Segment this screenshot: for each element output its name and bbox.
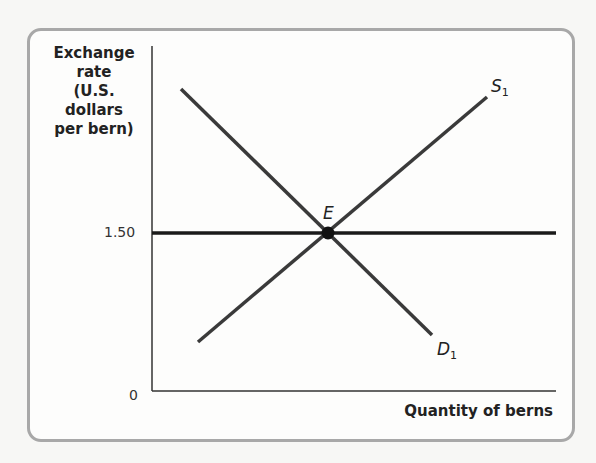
supply-label-s1: S1 (491, 76, 509, 99)
demand-curve-d1 (181, 89, 432, 335)
demand-label-d1: D1 (437, 339, 457, 362)
equilibrium-point-e (322, 227, 335, 240)
supply-label-subscript: 1 (502, 86, 509, 99)
point-e-label: E (323, 203, 334, 223)
demand-label-letter: D (437, 339, 450, 359)
supply-label-letter: S (491, 76, 502, 96)
origin-label: 0 (129, 387, 138, 403)
chart-plot (0, 0, 596, 463)
x-axis-label: Quantity of berns (404, 402, 553, 420)
supply-curve-s1 (198, 97, 487, 342)
y-tick-1-50: 1.50 (104, 224, 135, 240)
demand-label-subscript: 1 (450, 349, 457, 362)
